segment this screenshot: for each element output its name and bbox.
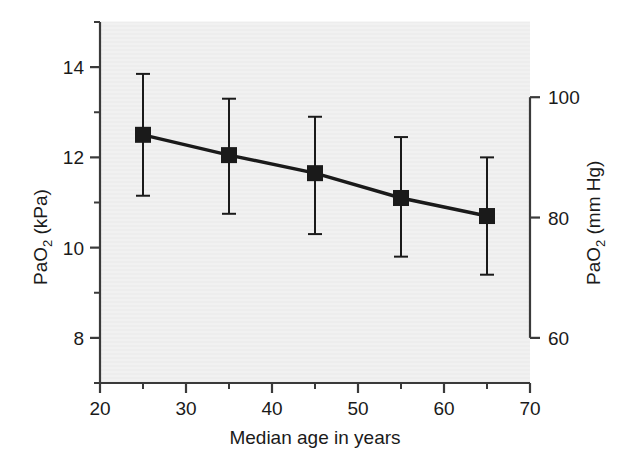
- data-point-marker: [393, 190, 409, 206]
- left-axis-tick-label: 12: [63, 147, 84, 168]
- chart-figure: 8101214 6080100 203040506070 PaO2 (kPa) …: [0, 0, 621, 457]
- right-axis-title: PaO2 (mm Hg): [583, 161, 608, 285]
- left-axis-tick-label: 10: [63, 238, 84, 259]
- right-axis-title-pre: PaO: [583, 247, 604, 285]
- left-axis-title: PaO2 (kPa): [30, 189, 55, 285]
- right-axis-tick-label: 60: [548, 328, 569, 349]
- bottom-axis: 203040506070: [89, 383, 540, 419]
- left-axis-tick-label: 14: [63, 57, 85, 78]
- data-point-marker: [135, 127, 151, 143]
- svg-text:PaO2 (kPa): PaO2 (kPa): [30, 189, 55, 285]
- x-axis-tick-label: 70: [519, 398, 540, 419]
- x-axis-tick-label: 30: [175, 398, 196, 419]
- left-axis: 8101214: [63, 22, 100, 383]
- data-point-marker: [221, 147, 237, 163]
- x-axis-tick-label: 40: [261, 398, 282, 419]
- left-axis-tick-label: 8: [73, 328, 84, 349]
- x-axis-tick-label: 20: [89, 398, 110, 419]
- data-point-marker: [479, 208, 495, 224]
- left-axis-title-pre: PaO: [30, 247, 51, 285]
- right-axis-tick-label: 80: [548, 208, 569, 229]
- right-axis-title-sub: 2: [593, 240, 608, 247]
- left-axis-title-sub: 2: [40, 240, 55, 247]
- pao2-vs-age-line-chart: 8101214 6080100 203040506070 PaO2 (kPa) …: [0, 0, 621, 457]
- x-axis-title-text: Median age in years: [229, 427, 400, 448]
- x-axis-tick-label: 60: [433, 398, 454, 419]
- right-axis-title-post: (mm Hg): [583, 161, 604, 240]
- svg-text:PaO2 (mm Hg): PaO2 (mm Hg): [583, 161, 608, 285]
- right-axis: 6080100: [530, 87, 580, 349]
- data-point-marker: [307, 165, 323, 181]
- right-axis-tick-label: 100: [548, 87, 580, 108]
- x-axis-tick-label: 50: [347, 398, 368, 419]
- left-axis-title-post: (kPa): [30, 189, 51, 240]
- x-axis-title: Median age in years: [229, 427, 400, 448]
